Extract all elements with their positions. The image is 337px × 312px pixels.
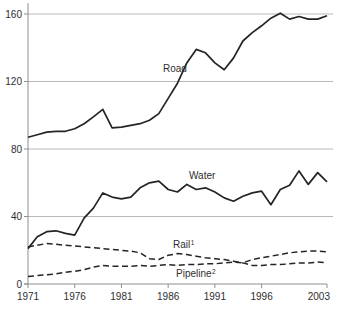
y-tick-label-80: 80 <box>11 144 23 155</box>
x-tick-label-1991: 1991 <box>204 291 227 302</box>
x-tick-label-2003: 2003 <box>308 291 331 302</box>
y-tick-label-0: 0 <box>16 279 22 290</box>
x-tick-label-1996: 1996 <box>250 291 273 302</box>
x-tick-label-1986: 1986 <box>157 291 180 302</box>
line-chart-svg: 040801201601971197619811986199119962003R… <box>0 0 337 312</box>
water-label: Water <box>189 170 216 181</box>
road-line <box>28 13 327 137</box>
rail-label: Rail1 <box>173 239 195 251</box>
x-tick-label-1971: 1971 <box>17 291 40 302</box>
road-label: Road <box>163 63 187 74</box>
y-tick-label-160: 160 <box>5 9 22 20</box>
x-tick-label-1981: 1981 <box>110 291 133 302</box>
y-tick-label-40: 40 <box>11 211 23 222</box>
pipeline-label: Pipeline2 <box>176 268 216 280</box>
y-tick-label-120: 120 <box>5 76 22 87</box>
water-line <box>28 171 327 249</box>
line-chart: 040801201601971197619811986199119962003R… <box>0 0 337 312</box>
x-tick-label-1976: 1976 <box>64 291 87 302</box>
